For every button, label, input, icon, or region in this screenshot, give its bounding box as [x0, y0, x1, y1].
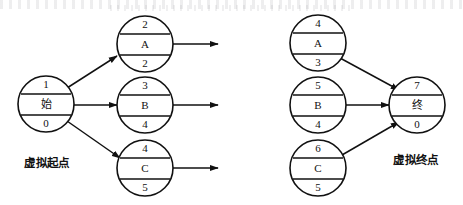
node-right-c-bottom-value: 5: [315, 181, 321, 193]
node-left-a-label: A: [141, 38, 149, 50]
node-start-label: 始: [41, 97, 52, 111]
node-left-c-label: C: [141, 162, 148, 174]
node-start-top-value: 1: [43, 78, 49, 90]
edge-start-to-c: [67, 121, 120, 158]
node-left-b-bottom-value: 4: [142, 118, 148, 130]
caption-right: 虚拟终点: [393, 153, 439, 167]
node-right-a-label: A: [314, 37, 322, 49]
edge-start-to-a: [67, 56, 117, 88]
node-left-c-top-value: 4: [142, 142, 148, 154]
node-right-b-bottom-value: 4: [315, 118, 321, 130]
node-end-top-value: 7: [414, 79, 420, 91]
node-right-c[interactable]: 6 C 5: [290, 140, 346, 196]
node-right-b-label: B: [314, 99, 321, 111]
node-left-a[interactable]: 2 A 2: [117, 16, 173, 72]
node-left-a-bottom-value: 2: [142, 57, 148, 69]
node-right-a-bottom-value: 3: [315, 56, 321, 68]
caption-left: 虚拟起点: [24, 156, 70, 170]
edge-c-to-end: [342, 122, 399, 155]
node-right-b-top-value: 5: [315, 79, 321, 91]
network-diagram: 1 始 0 2 A 2 3 B 4: [0, 0, 463, 205]
node-right-b[interactable]: 5 B 4: [290, 77, 346, 133]
node-right-c-label: C: [314, 162, 321, 174]
node-end-bottom-value: 0: [414, 118, 420, 130]
node-left-b-label: B: [141, 99, 148, 111]
left-group: 1 始 0 2 A 2 3 B 4: [18, 16, 173, 196]
node-start[interactable]: 1 始 0: [18, 76, 74, 132]
edge-a-to-end: [340, 58, 399, 90]
node-left-c-bottom-value: 5: [142, 181, 148, 193]
node-right-a[interactable]: 4 A 3: [290, 15, 346, 71]
node-right-a-top-value: 4: [315, 17, 321, 29]
network-diagram-container: 1 始 0 2 A 2 3 B 4: [0, 0, 463, 205]
node-left-a-top-value: 2: [142, 18, 148, 30]
node-right-c-top-value: 6: [315, 142, 321, 154]
node-end-label: 终: [412, 98, 423, 112]
node-start-bottom-value: 0: [43, 117, 49, 129]
node-left-c[interactable]: 4 C 5: [117, 140, 173, 196]
node-left-b-top-value: 3: [142, 79, 148, 91]
node-end[interactable]: 7 终 0: [389, 77, 445, 133]
node-left-b[interactable]: 3 B 4: [117, 77, 173, 133]
